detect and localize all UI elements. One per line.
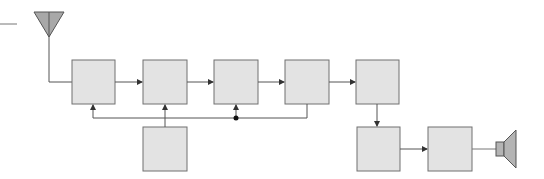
block-1: [72, 60, 115, 104]
block-2: [143, 60, 187, 104]
edge-antenna-to-block-1: [49, 37, 72, 82]
block-4: [285, 60, 329, 104]
block-diagram: [0, 0, 544, 179]
feedback-bus: [93, 104, 307, 118]
feedback-junction: [234, 116, 239, 121]
antenna-icon: [34, 12, 64, 37]
block-7: [428, 127, 472, 171]
block-5: [356, 60, 399, 104]
block-3: [214, 60, 258, 104]
block-6: [357, 127, 400, 171]
speaker-icon: [496, 130, 516, 168]
block-lower: [143, 127, 187, 171]
